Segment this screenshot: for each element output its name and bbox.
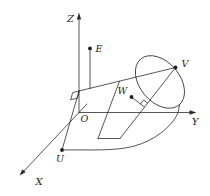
point-w-dot: [130, 95, 134, 99]
y-axis-arrowhead-icon: [190, 110, 197, 114]
point-e-label: E: [95, 43, 103, 54]
tilted-ellipse: [125, 46, 194, 118]
diagram-canvas: Z Y X O E V W U: [0, 0, 210, 196]
origin-label: O: [81, 113, 89, 124]
point-v-dot: [174, 66, 178, 70]
right-angle-marker-icon: [71, 91, 79, 100]
segment-w-perpendicular: [132, 97, 145, 107]
point-u-label: U: [56, 153, 65, 164]
z-axis-label: Z: [66, 13, 75, 24]
point-w-label: W: [118, 85, 129, 96]
z-axis-arrowhead-icon: [77, 13, 81, 20]
y-axis-label: Y: [192, 116, 200, 127]
edge-left: [98, 81, 120, 138]
x-axis-label: X: [34, 176, 43, 187]
point-v-label: V: [182, 58, 190, 69]
point-e-dot: [88, 47, 92, 51]
vector-geometry-diagram: Z Y X O E V W U: [0, 0, 210, 196]
point-u-dot: [60, 148, 64, 152]
right-angle-marker-w-icon: [141, 100, 148, 104]
